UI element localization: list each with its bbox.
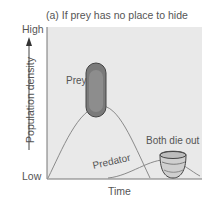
prey-population-icon [86,63,106,117]
up-arrow-icon [26,37,32,150]
predator-population-icon [160,151,186,178]
prey-curve-label: Prey [66,75,87,86]
both-die-out-annotation: Both die out [146,135,199,146]
plot-area [0,0,210,202]
